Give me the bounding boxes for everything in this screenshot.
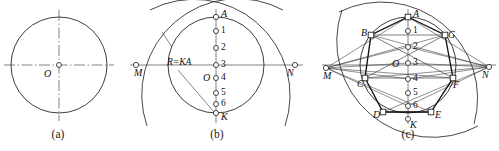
panel-b-arc-from-n xyxy=(142,0,283,126)
panel-b-arc-leader xyxy=(162,32,172,47)
panel-b-division-4 xyxy=(214,76,219,81)
panel-c-division-5 xyxy=(406,91,411,96)
figure-root: .outline{fill:none;stroke:#1a1a1a;stroke… xyxy=(0,0,499,151)
panel-b-division-5 xyxy=(214,91,219,96)
panel-c-division-2 xyxy=(406,45,411,50)
panel-c-division-label-6: 6 xyxy=(413,101,418,111)
panel-a-center-label: O xyxy=(44,69,51,79)
panel-b xyxy=(130,0,303,126)
construction-figure: .outline{fill:none;stroke:#1a1a1a;stroke… xyxy=(0,0,499,151)
panel-b-center-label: O xyxy=(203,73,210,83)
panel-b-division-1 xyxy=(214,29,219,34)
panel-b-division-2 xyxy=(214,46,219,51)
panel-a-center-marker xyxy=(57,63,62,68)
panel-c-vertex-a xyxy=(405,14,411,20)
panel-b-label-k: K xyxy=(221,112,228,122)
panel-c-label-a: A xyxy=(413,9,419,19)
caption-a: (a) xyxy=(52,128,65,140)
panel-c-vertex-b xyxy=(368,32,374,38)
panel-c-vertex-e xyxy=(428,109,434,115)
panel-c-label-g: G xyxy=(448,30,455,40)
panel-b-label-a: A xyxy=(221,9,227,19)
panel-b-division-label-5: 5 xyxy=(221,88,226,98)
panel-b-label-m: M xyxy=(134,68,142,78)
panel-a xyxy=(4,10,114,121)
caption-c: (c) xyxy=(402,128,415,140)
panel-c-label-c: C xyxy=(357,79,364,89)
panel-b-division-label-6: 6 xyxy=(221,99,226,109)
panel-c-label-e: E xyxy=(435,110,441,120)
panel-c-label-d: D xyxy=(373,110,380,120)
panel-c xyxy=(322,2,496,137)
panel-b-division-label-4: 4 xyxy=(221,73,226,83)
panel-b-radius-note: R=KA xyxy=(167,58,191,68)
panel-c-label-b: B xyxy=(361,28,367,38)
panel-c-vertex-d xyxy=(380,109,386,115)
panel-b-point-k xyxy=(213,110,218,115)
panel-c-division-label-3: 3 xyxy=(413,58,418,68)
panel-c-vertex-g xyxy=(442,32,448,38)
panel-c-division-label-5: 5 xyxy=(413,88,418,98)
panel-c-center-label: O xyxy=(392,59,399,69)
panel-c-label-m: M xyxy=(323,71,331,81)
panel-c-division-3 xyxy=(406,61,411,66)
panel-c-division-label-2: 2 xyxy=(413,42,418,52)
panel-c-division-label-4: 4 xyxy=(413,74,418,84)
panel-b-label-n: N xyxy=(287,68,294,78)
caption-b: (b) xyxy=(210,128,223,140)
panel-c-division-1 xyxy=(406,29,411,34)
panel-b-division-3 xyxy=(214,63,219,68)
panel-b-division-label-3: 3 xyxy=(221,60,226,70)
panel-b-division-label-2: 2 xyxy=(221,43,226,53)
panel-c-division-label-1: 1 xyxy=(413,26,418,36)
panel-b-division-label-1: 1 xyxy=(221,26,226,36)
panel-c-label-f: F xyxy=(453,80,459,90)
panel-c-division-6 xyxy=(406,104,411,109)
panel-c-label-n: N xyxy=(482,70,489,80)
panel-b-point-a xyxy=(213,14,218,19)
panel-c-division-4 xyxy=(406,77,411,82)
panel-b-division-6 xyxy=(214,102,219,107)
